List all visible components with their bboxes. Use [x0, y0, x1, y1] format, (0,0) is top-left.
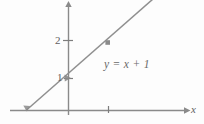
equation-annotation: y = x + 1 — [104, 59, 150, 71]
line-y-intercept-arrowhead — [65, 74, 71, 81]
y-axis-tick-label-1: 1 — [57, 72, 63, 83]
data-point-marker — [105, 40, 110, 45]
y-axis-tick-label-2: 2 — [55, 35, 61, 46]
line-graph-figure: 2 1 x y = x + 1 — [0, 0, 204, 124]
plot-canvas — [0, 0, 204, 124]
y-axis-arrowhead — [65, 1, 71, 7]
x-axis-label: x — [191, 104, 196, 115]
data-line-y-equals-x-plus-1 — [26, 0, 153, 111]
x-axis-arrowhead — [184, 107, 191, 113]
